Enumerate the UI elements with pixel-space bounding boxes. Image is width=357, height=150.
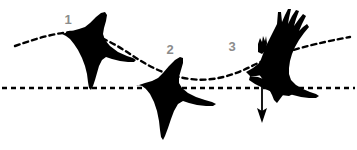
bird-flight-diagram: 1 2 3 (0, 0, 357, 150)
label-2: 2 (166, 42, 173, 57)
label-3: 3 (228, 39, 235, 54)
diagram-canvas: 1 2 3 (0, 0, 357, 150)
label-1: 1 (64, 12, 71, 27)
